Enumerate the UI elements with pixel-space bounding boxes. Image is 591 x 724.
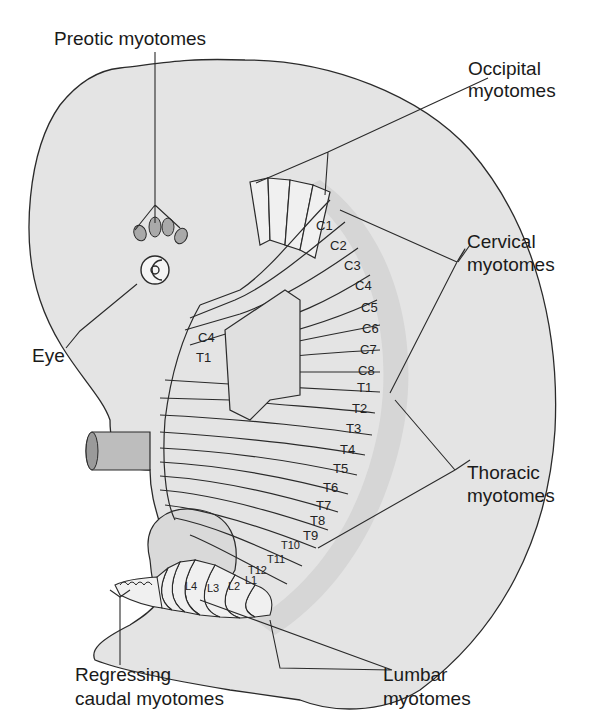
segment-label-t3: T3	[346, 421, 361, 436]
label-lumbar-line2: myotomes	[383, 688, 471, 710]
segment-label-t2: T2	[352, 401, 367, 416]
segment-label-t7: T7	[316, 498, 331, 513]
segment-label-c3: C3	[344, 258, 361, 273]
label-occipital-line2: myotomes	[468, 80, 556, 102]
eye	[141, 256, 169, 284]
caudal-tail	[115, 577, 162, 608]
segment-label-t1: T1	[357, 380, 372, 395]
label-regressing-line2: caudal myotomes	[75, 688, 224, 710]
label-preotic-myotomes: Preotic myotomes	[54, 28, 206, 50]
segment-label-c2: C2	[330, 238, 347, 253]
label-cervical-line2: myotomes	[467, 254, 555, 276]
segment-label-t9: T9	[303, 528, 318, 543]
label-thoracic-line2: myotomes	[467, 485, 555, 507]
segment-label-c7: C7	[360, 342, 377, 357]
segment-label-c5: C5	[361, 300, 378, 315]
segment-label-l2: L2	[228, 580, 240, 592]
embryo-illustration: C1 C2 C3 C4 C5 C6 C7 C8 T1 T2 T3 T4 T5 T…	[0, 0, 591, 724]
segment-label-t5: T5	[333, 461, 348, 476]
label-lumbar-line1: Lumbar	[383, 664, 447, 686]
label-thoracic-line1: Thoracic	[467, 462, 540, 484]
segment-label-t10: T10	[281, 539, 300, 551]
segment-label-c6: C6	[362, 321, 379, 336]
label-regressing-line1: Regressing	[75, 664, 171, 686]
segment-label-t6: T6	[323, 480, 338, 495]
segment-label-t8: T8	[310, 513, 325, 528]
segment-label-l4: L4	[185, 580, 197, 592]
segment-label-c8: C8	[358, 363, 375, 378]
segment-label-c1: C1	[316, 218, 333, 233]
label-occipital-line1: Occipital	[468, 58, 541, 80]
myotome-diagram: C1 C2 C3 C4 C5 C6 C7 C8 T1 T2 T3 T4 T5 T…	[0, 0, 591, 724]
segment-label-t1-inner: T1	[196, 350, 211, 365]
label-cervical-line1: Cervical	[467, 231, 536, 253]
segment-label-t4: T4	[340, 442, 355, 457]
segment-label-l3: L3	[207, 582, 219, 594]
label-eye: Eye	[32, 345, 65, 367]
segment-label-l1: L1	[245, 574, 257, 586]
segment-label-c4-inner: C4	[198, 330, 215, 345]
segment-label-c4: C4	[355, 278, 372, 293]
segment-label-t11: T11	[267, 553, 285, 565]
